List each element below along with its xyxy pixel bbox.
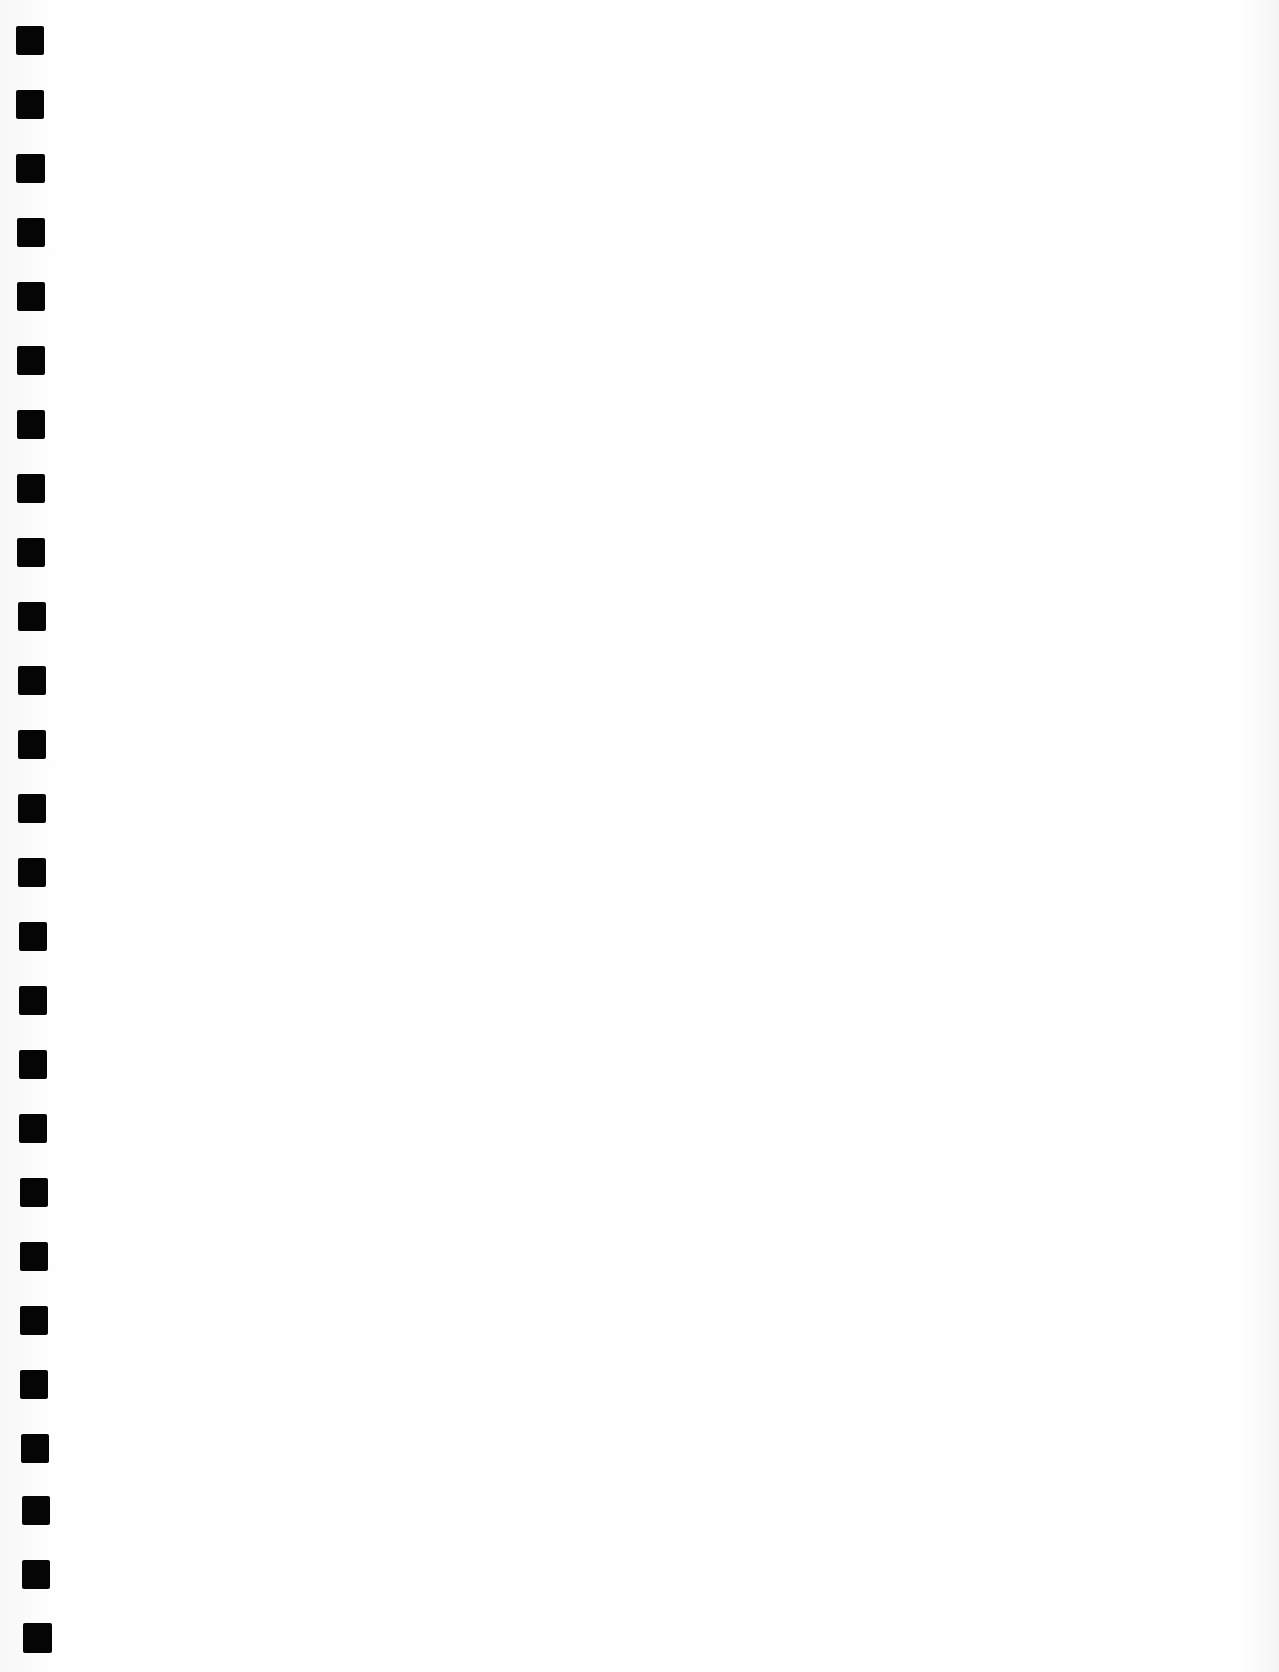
binding-hole xyxy=(18,666,46,695)
binding-hole xyxy=(17,538,45,567)
blank-page xyxy=(0,0,1279,1672)
binding-hole xyxy=(22,1496,50,1525)
binding-hole xyxy=(17,218,45,247)
binding-hole xyxy=(21,1434,49,1463)
binding-hole xyxy=(18,794,46,823)
binding-hole xyxy=(18,858,46,887)
binding-hole xyxy=(23,1623,52,1653)
binding-hole xyxy=(20,1306,48,1335)
binding-hole xyxy=(19,1114,47,1143)
binding-hole xyxy=(20,1242,48,1271)
binding-hole xyxy=(22,1560,50,1589)
binding-hole xyxy=(16,90,44,119)
binding-hole xyxy=(19,922,47,951)
binding-hole xyxy=(16,26,44,55)
binding-hole xyxy=(17,474,45,503)
binding-hole xyxy=(16,154,45,183)
binding-hole xyxy=(18,730,46,759)
binding-hole xyxy=(18,602,46,631)
binding-hole xyxy=(17,410,45,439)
binding-hole xyxy=(19,1050,47,1079)
binding-hole xyxy=(17,346,45,375)
binding-hole xyxy=(17,282,45,311)
binding-hole xyxy=(19,986,47,1015)
binding-hole xyxy=(20,1178,48,1207)
binding-hole xyxy=(20,1370,48,1399)
